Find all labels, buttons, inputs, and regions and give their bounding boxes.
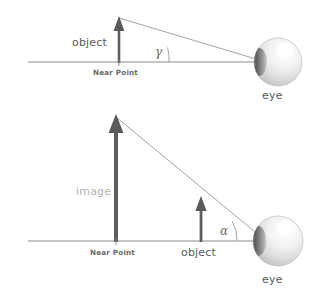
angle-label-alpha: α (220, 224, 228, 238)
eye-highlight-top (276, 43, 295, 58)
object-arrow-head-top (114, 16, 125, 31)
near-point-label-bottom: Near Point (90, 248, 135, 257)
image-label-bottom: image (76, 185, 111, 198)
eye-highlight-bottom (276, 220, 296, 236)
diagram-canvas: object Near Point eye γ (0, 0, 315, 300)
eye-top (251, 38, 302, 86)
angle-arc-gamma (168, 48, 169, 63)
object-label-top: object (72, 36, 108, 49)
ray-image-tip-to-eye-bottom (116, 117, 266, 241)
eye-label-top: eye (262, 89, 283, 102)
object-arrow-bottom (195, 196, 206, 242)
eye-bottom (250, 216, 304, 266)
optics-diagram-figure: object Near Point eye γ (0, 0, 315, 300)
object-arrow-head-bottom (195, 196, 206, 211)
angle-label-gamma: γ (155, 45, 163, 59)
angle-arc-alpha (232, 221, 237, 241)
unaided-eye-panel: object Near Point eye γ (28, 16, 302, 102)
magnifier-panel: image Near Point object eye α (28, 114, 303, 286)
image-arrow-bottom (109, 114, 124, 242)
image-arrow-head-bottom (109, 114, 124, 133)
near-point-label-top: Near Point (93, 68, 138, 77)
object-arrow-top (114, 16, 125, 63)
object-label-bottom: object (181, 246, 217, 259)
eye-label-bottom: eye (262, 273, 283, 286)
ray-object-tip-to-eye-top (119, 18, 266, 62)
